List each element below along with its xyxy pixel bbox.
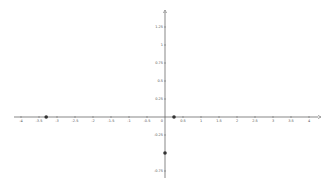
data-point [44, 115, 48, 119]
axes [14, 10, 321, 178]
x-tick-label: 1.5 [216, 119, 222, 123]
x-tick-label: -0.5 [144, 119, 151, 123]
coordinate-plane: -4-3.5-3-2.5-2-1.5-1-0.50.511.522.533.54… [0, 0, 333, 185]
x-tick-label: 3 [272, 119, 274, 123]
x-tick-label: 2.5 [252, 119, 258, 123]
x-axis-arrow-icon [318, 116, 321, 119]
x-tick-label: 4 [308, 119, 311, 123]
x-tick-label: -2.5 [72, 119, 79, 123]
data-point [172, 115, 176, 119]
y-tick-label: 0.75 [155, 61, 163, 65]
x-tick-label: -3.5 [36, 119, 43, 123]
x-tick-label: -1.5 [108, 119, 115, 123]
y-tick-label: 1.25 [155, 25, 163, 29]
data-point [163, 151, 167, 155]
x-tick-label: -2 [91, 119, 95, 123]
y-tick-label: 0.25 [155, 97, 163, 101]
x-tick-label: 0.5 [180, 119, 186, 123]
y-tick-label: -0.25 [154, 133, 163, 137]
origin-label: 0 [161, 119, 163, 123]
x-tick-label: -3 [55, 119, 59, 123]
x-tick-label: 2 [236, 119, 238, 123]
x-tick-label: -4 [19, 119, 23, 123]
x-tick-label: -1 [127, 119, 131, 123]
y-tick-label: 1 [161, 43, 163, 47]
x-tick-label: 3.5 [288, 119, 294, 123]
y-tick-label: 0.5 [157, 79, 163, 83]
y-tick-label: -0.75 [154, 169, 163, 173]
x-tick-label: 1 [200, 119, 202, 123]
